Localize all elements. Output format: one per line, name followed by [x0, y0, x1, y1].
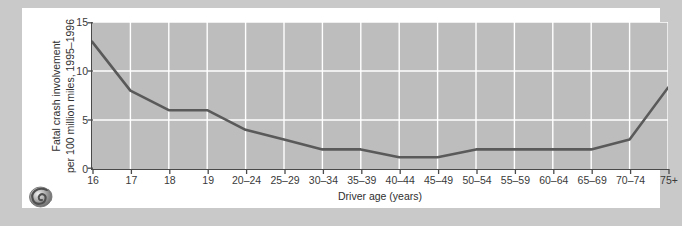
chart-plot-svg	[92, 22, 668, 169]
y-axis-tick-labels: 051015	[66, 8, 88, 208]
plot-area	[92, 22, 668, 169]
x-tick-label: 70–74	[616, 174, 645, 186]
x-tick-label: 65–69	[578, 174, 607, 186]
chart-card: Fatal crash involvement per 100 million …	[22, 8, 660, 208]
x-tick-label: 19	[202, 174, 214, 186]
y-tick-label: 0	[66, 164, 88, 174]
x-axis-tick-labels: 1617181920–2425–2930–3435–3940–4445–4950…	[92, 174, 668, 190]
x-tick-label: 25–29	[270, 174, 299, 186]
x-axis-title: Driver age (years)	[92, 190, 668, 202]
x-tick-label: 50–54	[462, 174, 491, 186]
x-tick-label: 16	[87, 174, 99, 186]
x-tick-label: 55–59	[501, 174, 530, 186]
y-axis-title-line1: Fatal crash involvement	[50, 19, 64, 173]
x-tick-label: 20–24	[232, 174, 261, 186]
y-tick-label: 10	[66, 66, 88, 76]
x-tick-label: 45–49	[424, 174, 453, 186]
x-tick-label: 35–39	[347, 174, 376, 186]
x-tick-label: 60–64	[539, 174, 568, 186]
y-axis-tickmarks	[86, 22, 93, 170]
y-tick-label: 15	[66, 17, 88, 27]
y-tick-label: 5	[66, 115, 88, 125]
x-tick-label: 75+	[660, 174, 678, 186]
spiral-shell-logo-icon	[27, 184, 55, 210]
x-tick-label: 30–34	[309, 174, 338, 186]
x-tick-label: 40–44	[386, 174, 415, 186]
horizontal-gridlines	[92, 22, 668, 120]
data-series-line	[92, 42, 668, 158]
x-tick-label: 17	[126, 174, 138, 186]
vertical-gridlines	[130, 22, 668, 169]
x-tick-label: 18	[164, 174, 176, 186]
chart-figure: Fatal crash involvement per 100 million …	[0, 0, 682, 226]
